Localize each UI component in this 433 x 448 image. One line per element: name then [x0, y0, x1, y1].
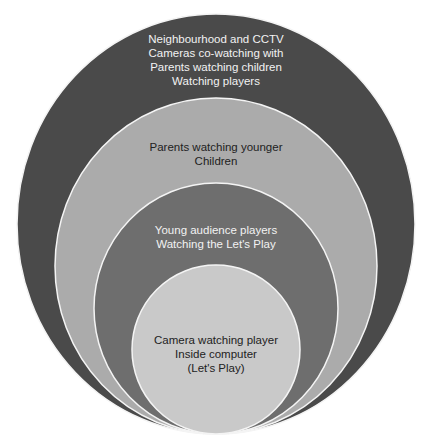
inner-circle-label: Camera watching player Inside computer (…	[154, 333, 278, 375]
third-circle-label: Young audience players Watching the Let'…	[155, 223, 277, 251]
outer-circle-label: Neighbourhood and CCTV Cameras co-watchi…	[148, 32, 284, 88]
second-circle-label: Parents watching younger Children	[150, 140, 283, 168]
